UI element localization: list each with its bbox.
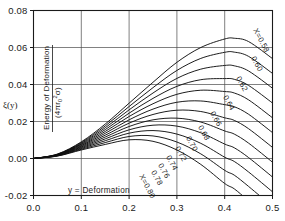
x-tick-label: 0.4: [218, 202, 232, 213]
y-tick-label: -0.02: [5, 190, 28, 201]
x-tick-label: 0.1: [74, 202, 88, 213]
y-tick-label: 0.00: [8, 153, 27, 164]
y-axis-numerator: Energy of Deformation: [42, 46, 51, 130]
chart-figure: 0.00.10.20.30.40.5 -0.020.000.020.040.06…: [0, 0, 285, 221]
y-tick-label: 0.04: [8, 79, 27, 90]
den-suffix: ): [53, 87, 62, 90]
y-tick-label: 0.08: [8, 5, 27, 16]
x-tick-label: 0.5: [266, 202, 280, 213]
y-tick-label: 0.02: [8, 116, 27, 127]
denominator-text: (4πr02σ): [52, 87, 62, 118]
x-axis-title: y = Deformation: [68, 186, 130, 195]
x-tick-label: 0.2: [122, 202, 136, 213]
y-axis-denominator: (4πr02σ): [52, 87, 62, 118]
y-axis-symbol-label: ξ(y): [3, 100, 18, 110]
energy-of-deformation-chart: 0.00.10.20.30.40.5 -0.020.000.020.040.06…: [0, 0, 285, 221]
x-tick-label: 0.0: [27, 202, 41, 213]
x-tick-label: 0.3: [170, 202, 184, 213]
y-tick-label: 0.06: [8, 42, 27, 53]
